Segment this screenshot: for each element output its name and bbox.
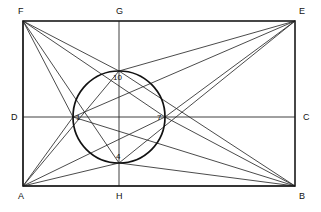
- chord-F-to-7: [23, 21, 165, 117]
- chord-A-to-10: [23, 71, 119, 186]
- chord-A-to-7: [23, 117, 165, 186]
- circle-point-label-p7: 7: [157, 113, 162, 122]
- chord-F-to-10: [23, 21, 119, 71]
- chord-E-to-10: [119, 21, 295, 71]
- circle-point-label-p4: 4: [116, 152, 121, 161]
- midpoint-label-G: G: [116, 6, 123, 16]
- vertex-label-F: F: [18, 6, 24, 16]
- midpoint-label-H: H: [116, 191, 123, 201]
- vertex-label-B: B: [299, 191, 305, 201]
- geometry-canvas: FEBA GCHD 14710: [0, 0, 321, 212]
- vertex-label-E: E: [299, 6, 305, 16]
- axis-group: [23, 21, 295, 186]
- chord-E-to-4: [119, 21, 295, 163]
- rectangle-frame: [23, 21, 295, 186]
- circle-point-label-p10: 10: [113, 73, 122, 82]
- chord-B-to-4: [119, 163, 295, 186]
- midpoint-label-group: GCHD: [11, 6, 310, 201]
- geometry-diagram: FEBA GCHD 14710: [0, 0, 321, 212]
- chord-group: [23, 21, 295, 186]
- vertex-label-A: A: [18, 191, 24, 201]
- chord-F-to-1: [23, 21, 73, 117]
- midpoint-label-D: D: [11, 112, 18, 122]
- chord-B-to-10: [119, 71, 295, 186]
- midpoint-label-C: C: [303, 112, 310, 122]
- circle-point-label-p1: 1: [76, 113, 81, 122]
- chord-F-to-4: [23, 21, 119, 163]
